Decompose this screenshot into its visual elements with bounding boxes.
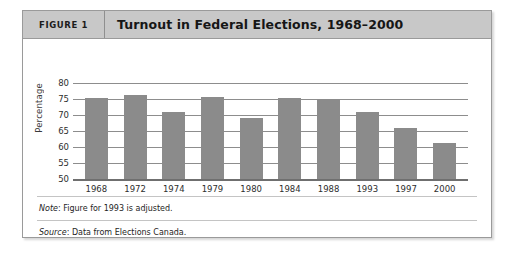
source-text: : Data from Elections Canada. [67, 228, 187, 237]
bar [394, 128, 417, 179]
bar [356, 112, 379, 179]
x-axis-tick: 1980 [232, 184, 271, 194]
note-text: : Figure for 1993 is adjusted. [58, 204, 173, 213]
y-axis-tick: 55 [47, 159, 69, 168]
y-axis-title: Percentage [34, 83, 48, 133]
bar [317, 99, 340, 179]
source-label: Source [39, 228, 67, 237]
y-axis-tick: 50 [47, 175, 69, 184]
figure-note: Note: Figure for 1993 is adjusted. [23, 197, 491, 220]
bar-slot [116, 83, 155, 179]
y-axis-tick: 80 [47, 79, 69, 88]
x-axis-tick: 1974 [154, 184, 193, 194]
bar [85, 98, 108, 179]
x-axis-baseline [73, 179, 468, 181]
bar [278, 98, 301, 179]
x-axis-tick: 1993 [348, 184, 387, 194]
bar-slot [232, 83, 271, 179]
bar-slot [309, 83, 348, 179]
y-axis-tick: 65 [47, 127, 69, 136]
x-axis-tick: 1988 [309, 184, 348, 194]
plot-area [73, 83, 468, 179]
bar [162, 112, 185, 179]
bar-slot [387, 83, 426, 179]
x-axis-tick: 1979 [193, 184, 232, 194]
bar-slot [154, 83, 193, 179]
x-axis-tick: 1984 [271, 184, 310, 194]
x-axis-tick: 2000 [425, 184, 464, 194]
x-axis-tick: 1972 [116, 184, 155, 194]
bar [433, 143, 456, 179]
bar-slot [77, 83, 116, 179]
x-axis-tick: 1968 [77, 184, 116, 194]
bar [240, 118, 263, 179]
bar-slot [348, 83, 387, 179]
bar [201, 97, 224, 179]
bar-slot [425, 83, 464, 179]
y-axis-tick: 60 [47, 143, 69, 152]
bar-slot [271, 83, 310, 179]
figure-frame: FIGURE 1 Turnout in Federal Elections, 1… [22, 10, 492, 238]
x-axis-tick: 1997 [387, 184, 426, 194]
y-axis-tick: 70 [47, 111, 69, 120]
y-axis-tick: 75 [47, 95, 69, 104]
figure-title: Turnout in Federal Elections, 1968–2000 [105, 11, 491, 38]
bar-series [73, 83, 468, 179]
chart-plot-wrapper: Percentage 80757065605550 19681972197419… [23, 39, 491, 196]
x-axis-tick-labels: 1968197219741979198019841988199319972000 [73, 184, 468, 194]
bar-slot [193, 83, 232, 179]
chart-region: Percentage 80757065605550 19681972197419… [23, 39, 491, 196]
figure-number-label: FIGURE 1 [23, 11, 105, 38]
figure-source: Source: Data from Elections Canada. [23, 221, 491, 244]
bar [124, 95, 147, 179]
y-axis-tick-labels: 80757065605550 [47, 83, 69, 179]
figure-header: FIGURE 1 Turnout in Federal Elections, 1… [23, 11, 491, 39]
note-label: Note [39, 204, 58, 213]
